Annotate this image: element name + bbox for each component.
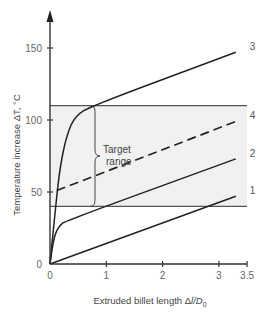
target-range-label-1: Target — [103, 144, 131, 155]
y-tick-label: 100 — [25, 115, 42, 126]
series-label-1: 1 — [250, 185, 256, 196]
series-label-3: 3 — [250, 41, 256, 52]
x-tick-label: 1 — [104, 270, 110, 281]
target-range-label-2: range — [106, 156, 132, 167]
series-label-2: 2 — [250, 148, 256, 159]
x-tick-label: 3.5 — [240, 270, 254, 281]
x-tick-label: 2 — [160, 270, 166, 281]
x-tick-label: 0 — [47, 270, 53, 281]
chart: 123401233.5050100150TargetrangeExtruded … — [0, 0, 273, 320]
x-axis-label: Extruded billet length Δl/D0 — [93, 295, 206, 308]
y-tick-label: 50 — [31, 187, 43, 198]
series-label-4: 4 — [250, 110, 256, 121]
y-tick-label: 0 — [36, 259, 42, 270]
y-tick-label: 150 — [25, 43, 42, 54]
y-axis-arrow-icon — [47, 10, 54, 22]
y-axis-label: Temperature increase ΔT, °C — [11, 94, 22, 216]
x-tick-label: 3 — [216, 270, 222, 281]
